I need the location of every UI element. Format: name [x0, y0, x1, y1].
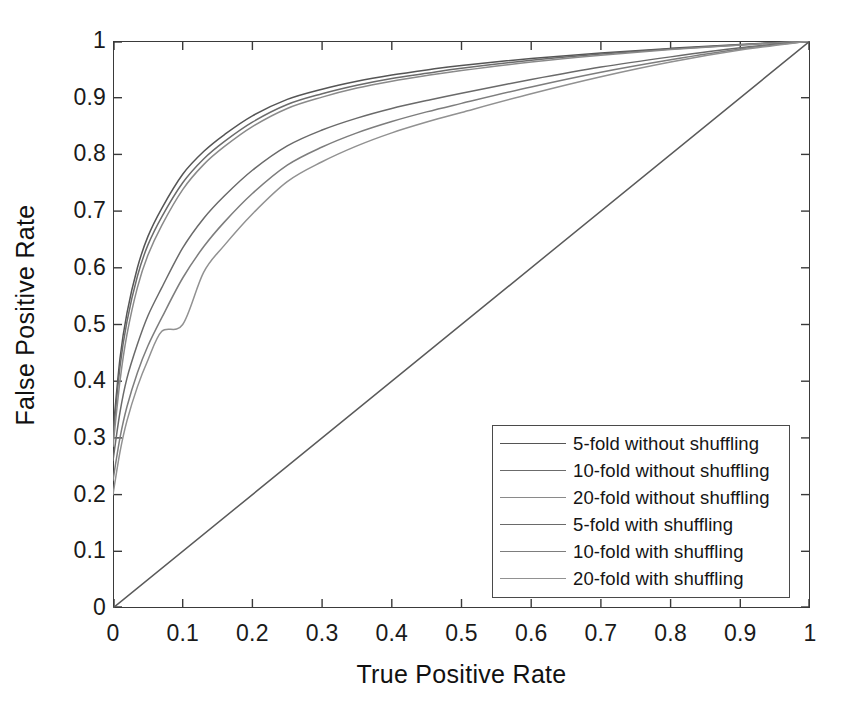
- y-tick-label: 0.8: [44, 142, 106, 165]
- legend-line-icon: [500, 573, 566, 585]
- y-tick-label: 0.9: [44, 86, 106, 109]
- y-tick-label: 0: [44, 596, 106, 619]
- x-tick-label: 0.1: [148, 622, 218, 645]
- y-tick-label: 0.3: [44, 426, 106, 449]
- legend-line-icon: [500, 519, 566, 531]
- x-tick-label: 0.7: [566, 622, 636, 645]
- legend-line-icon: [500, 438, 566, 450]
- y-tick-label: 0.2: [44, 483, 106, 506]
- chart-legend: 5-fold without shuffling10-fold without …: [492, 425, 790, 598]
- legend-item: 20-fold without shuffling: [493, 484, 789, 511]
- legend-label: 10-fold with shuffling: [573, 542, 744, 561]
- y-tick-label: 0.7: [44, 199, 106, 222]
- legend-line-icon: [500, 465, 566, 477]
- x-tick-label: 0: [78, 622, 148, 645]
- legend-item: 5-fold with shuffling: [493, 511, 789, 538]
- legend-line-icon: [500, 492, 566, 504]
- y-tick-label: 0.4: [44, 369, 106, 392]
- legend-label: 20-fold without shuffling: [573, 488, 770, 507]
- y-tick-label: 1: [44, 29, 106, 52]
- legend-label: 5-fold without shuffling: [573, 434, 759, 453]
- roc-chart-figure: 00.10.20.30.40.50.60.70.80.91 00.10.20.3…: [0, 0, 851, 708]
- y-tick-label: 0.5: [44, 313, 106, 336]
- x-tick-label: 0.9: [705, 622, 775, 645]
- x-tick-label: 0.3: [287, 622, 357, 645]
- x-tick-label: 0.6: [496, 622, 566, 645]
- y-tick-label: 0.6: [44, 256, 106, 279]
- legend-label: 5-fold with shuffling: [573, 515, 733, 534]
- legend-item: 10-fold without shuffling: [493, 457, 789, 484]
- legend-item: 5-fold without shuffling: [493, 430, 789, 457]
- legend-label: 20-fold with shuffling: [573, 569, 744, 588]
- x-tick-label: 0.8: [636, 622, 706, 645]
- y-axis-title-wrapper: False Positive Rate: [11, 165, 41, 465]
- x-tick-label: 0.2: [217, 622, 287, 645]
- x-axis-tick-labels: 00.10.20.30.40.50.60.70.80.91: [0, 622, 851, 656]
- legend-item: 20-fold with shuffling: [493, 565, 789, 592]
- legend-line-icon: [500, 546, 566, 558]
- y-tick-label: 0.1: [44, 539, 106, 562]
- x-tick-label: 0.5: [427, 622, 497, 645]
- x-tick-label: 1: [775, 622, 845, 645]
- y-axis-title: False Positive Rate: [11, 165, 40, 465]
- x-tick-label: 0.4: [357, 622, 427, 645]
- x-axis-title: True Positive Rate: [113, 660, 810, 689]
- y-axis-tick-labels: 00.10.20.30.40.50.60.70.80.91: [30, 0, 106, 708]
- legend-item: 10-fold with shuffling: [493, 538, 789, 565]
- legend-label: 10-fold without shuffling: [573, 461, 770, 480]
